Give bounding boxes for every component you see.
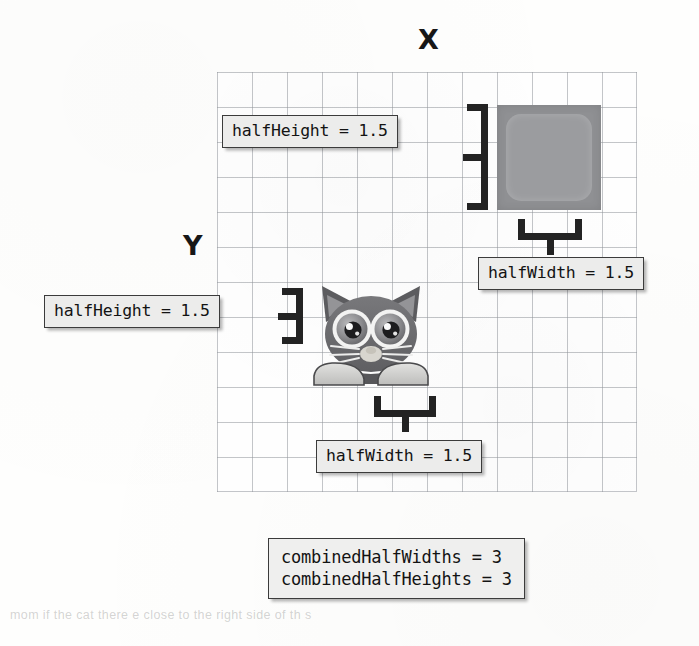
callout-cat-half-height: halfHeight = 1.5	[44, 295, 220, 328]
cat-half-width-bracket	[374, 392, 436, 422]
bracket-tick	[402, 410, 409, 432]
bracket-left-arm	[518, 219, 525, 240]
bracket-right-arm	[429, 396, 436, 417]
combined-half-widths-line: combinedHalfWidths = 3	[281, 546, 512, 568]
bracket-bottom-arm	[467, 203, 488, 210]
bracket-bottom-arm	[282, 337, 303, 344]
bracket-tick	[278, 313, 298, 320]
y-axis-label: Y	[183, 232, 203, 259]
bracket-top-arm	[282, 288, 303, 295]
square-half-height-bracket	[463, 104, 493, 210]
bracket-top-arm	[467, 104, 488, 111]
square-half-width-bracket	[518, 215, 582, 245]
cat-sprite	[312, 284, 430, 390]
square-sprite-inner	[506, 114, 592, 201]
x-axis-label: X	[418, 26, 439, 53]
callout-combined-values: combinedHalfWidths = 3 combinedHalfHeigh…	[268, 538, 525, 599]
combined-half-heights-line: combinedHalfHeights = 3	[281, 568, 512, 590]
callout-square-half-width: halfWidth = 1.5	[478, 257, 644, 290]
bracket-tick	[547, 233, 554, 255]
callout-square-half-height: halfHeight = 1.5	[222, 115, 398, 148]
bracket-tick	[463, 154, 483, 161]
bracket-right-arm	[575, 219, 582, 240]
callout-cat-half-width: halfWidth = 1.5	[316, 440, 482, 473]
square-sprite	[497, 105, 601, 210]
bracket-left-arm	[374, 396, 381, 417]
cat-half-height-bracket	[278, 288, 308, 344]
